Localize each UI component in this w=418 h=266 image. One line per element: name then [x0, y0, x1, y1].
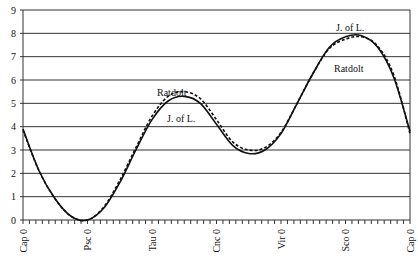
- chart: 0123456789 Cap 0Psc 0Tau 0Cnc 0Vir 0Sco …: [0, 0, 418, 266]
- y-tick-label: 0: [11, 215, 16, 226]
- x-tick-label: Vir 0: [276, 229, 287, 249]
- annotation-ratdolt-2: Ratdolt: [334, 63, 364, 74]
- x-tick-label: Tau 0: [147, 229, 158, 251]
- x-tick-label: Cap 0: [18, 229, 29, 253]
- y-tick-label: 5: [11, 98, 16, 109]
- gridlines: [23, 10, 410, 220]
- y-tick-label: 6: [11, 75, 16, 86]
- y-tick-label: 7: [11, 51, 16, 62]
- x-axis-ticks: Cap 0Psc 0Tau 0Cnc 0Vir 0Sco 0Cap 0: [18, 220, 416, 253]
- y-tick-label: 8: [11, 28, 16, 39]
- y-tick-label: 3: [11, 145, 16, 156]
- x-tick-label: Sco 0: [340, 229, 351, 252]
- x-tick-label: Psc 0: [82, 229, 93, 250]
- y-tick-label: 1: [11, 191, 16, 202]
- y-tick-label: 9: [11, 5, 16, 16]
- annotation-jofl-1: J. of L.: [167, 113, 195, 124]
- x-tick-label: Cnc 0: [211, 229, 222, 253]
- y-tick-label: 4: [11, 121, 16, 132]
- annotation-ratdolt-1: Ratdolt: [157, 87, 187, 98]
- annotation-jofl-2: J. of L.: [336, 22, 364, 33]
- y-axis-ticks: 0123456789: [11, 5, 23, 226]
- axes: [23, 10, 410, 220]
- y-tick-label: 2: [11, 168, 16, 179]
- x-tick-label: Cap 0: [405, 229, 416, 253]
